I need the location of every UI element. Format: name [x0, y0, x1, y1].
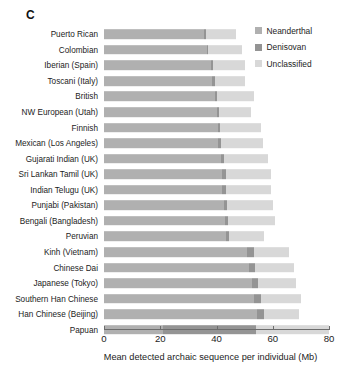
bar-segment-unclassified	[261, 294, 300, 304]
bar-row: Han Chinese (Beijing)	[0, 306, 349, 322]
legend-swatch-icon	[255, 27, 262, 34]
x-axis-tick-label: 0	[101, 333, 106, 344]
bar-row-label: Bengali (Bangladesh)	[20, 216, 98, 225]
stacked-bar	[104, 45, 242, 55]
bar-row-label: Puerto Rican	[51, 30, 98, 39]
bar-segment-neanderthal	[104, 309, 257, 319]
bar-row-label: Sri Lankan Tamil (UK)	[19, 170, 98, 179]
bar-segment-unclassified	[227, 201, 273, 211]
bar-segment-neanderthal	[104, 294, 254, 304]
bar-segment-neanderthal	[104, 278, 252, 288]
bar-segment-neanderthal	[104, 247, 247, 257]
bar-segment-unclassified	[254, 247, 289, 257]
bar-segment-unclassified	[264, 309, 299, 319]
bar-row: Sri Lankan Tamil (UK)	[0, 166, 349, 182]
x-axis-tick-label: 60	[267, 333, 278, 344]
bar-row: NW European (Utah)	[0, 104, 349, 120]
panel-letter: C	[26, 8, 35, 22]
bar-segment-neanderthal	[104, 138, 218, 148]
bar-segment-unclassified	[217, 92, 254, 102]
bar-segment-neanderthal	[104, 185, 222, 195]
stacked-bar	[104, 61, 245, 71]
bar-segment-unclassified	[224, 154, 268, 164]
stacked-bar	[104, 154, 268, 164]
bar-row-label: Finnish	[72, 123, 98, 132]
bar-row-label: Gujarati Indian (UK)	[26, 154, 98, 163]
bar-segment-unclassified	[221, 138, 263, 148]
bar-row-label: Punjabi (Pakistan)	[32, 201, 98, 210]
bar-segment-unclassified	[226, 185, 271, 195]
bar-segment-neanderthal	[104, 107, 217, 117]
stacked-bar	[104, 92, 254, 102]
legend-swatch-icon	[255, 44, 262, 51]
bar-segment-unclassified	[228, 216, 274, 226]
bar-segment-unclassified	[255, 263, 294, 273]
bar-segment-neanderthal	[104, 61, 211, 71]
bar-segment-unclassified	[219, 107, 251, 117]
bar-segment-neanderthal	[104, 216, 225, 226]
bar-row: Mexican (Los Angeles)	[0, 135, 349, 151]
bar-row: Punjabi (Pakistan)	[0, 198, 349, 214]
bar-row: Bengali (Bangladesh)	[0, 213, 349, 229]
x-axis-title: Mean detected archaic sequence per indiv…	[98, 352, 323, 362]
bar-segment-neanderthal	[104, 92, 215, 102]
figure-panel-c: C Puerto RicanColombianIberian (Spain)To…	[0, 0, 349, 371]
bar-segment-denisovan	[254, 294, 261, 304]
x-axis-tick-label: 20	[155, 333, 166, 344]
stacked-bar	[104, 201, 273, 211]
bar-segment-neanderthal	[104, 76, 212, 86]
legend-item: Neanderthal	[255, 26, 349, 35]
stacked-bar	[104, 294, 301, 304]
bar-segment-unclassified	[206, 30, 237, 40]
bar-segment-neanderthal	[104, 201, 224, 211]
bar-row-label: Southern Han Chinese	[15, 294, 98, 303]
bar-segment-unclassified	[213, 61, 245, 71]
bar-row-label: Iberian (Spain)	[44, 61, 98, 70]
x-axis-tick	[217, 326, 218, 330]
bar-row: Peruvian	[0, 229, 349, 245]
legend-label: Neanderthal	[267, 26, 313, 36]
bar-row: Japanese (Tokyo)	[0, 275, 349, 291]
bar-row: British	[0, 89, 349, 105]
bar-segment-neanderthal	[104, 232, 226, 242]
bar-row: Gujarati Indian (UK)	[0, 151, 349, 167]
legend-label: Unclassified	[267, 59, 312, 69]
x-axis-line	[104, 329, 329, 330]
bar-segment-neanderthal	[104, 154, 221, 164]
bar-row-label: Kinh (Vietnam)	[44, 247, 98, 256]
stacked-bar	[104, 309, 299, 319]
bar-row-label: Han Chinese (Beijing)	[18, 310, 98, 319]
bar-row: Finnish	[0, 120, 349, 136]
bar-segment-unclassified	[215, 76, 246, 86]
bar-row-label: Peruvian	[66, 232, 98, 241]
bar-row-label: Colombian	[59, 45, 98, 54]
bar-segment-denisovan	[257, 309, 264, 319]
bar-row-label: Papuan	[70, 325, 98, 334]
bar-segment-unclassified	[208, 45, 242, 55]
bar-row: Chinese Dai	[0, 260, 349, 276]
bar-segment-neanderthal	[104, 169, 222, 179]
bar-row: Southern Han Chinese	[0, 291, 349, 307]
bar-segment-unclassified	[220, 123, 261, 133]
stacked-bar	[104, 232, 264, 242]
x-axis-tick	[273, 326, 274, 330]
legend: NeanderthalDenisovanUnclassified	[255, 26, 349, 76]
x-axis-tick-label: 40	[211, 333, 222, 344]
x-axis-tick	[160, 326, 161, 330]
stacked-bar	[104, 247, 289, 257]
legend-label: Denisovan	[267, 42, 307, 52]
stacked-bar	[104, 138, 263, 148]
stacked-bar	[104, 123, 261, 133]
bar-segment-neanderthal	[104, 123, 218, 133]
bar-segment-unclassified	[258, 278, 296, 288]
bar-row-label: Mexican (Los Angeles)	[15, 139, 98, 148]
bar-segment-unclassified	[229, 232, 264, 242]
bar-segment-neanderthal	[104, 263, 249, 273]
stacked-bar	[104, 76, 245, 86]
bar-row-label: British	[75, 92, 98, 101]
bar-segment-neanderthal	[104, 30, 204, 40]
bar-row-label: Toscani (Italy)	[47, 76, 98, 85]
stacked-bar	[104, 185, 271, 195]
stacked-bar	[104, 30, 236, 40]
bar-row-label: Chinese Dai	[53, 263, 98, 272]
